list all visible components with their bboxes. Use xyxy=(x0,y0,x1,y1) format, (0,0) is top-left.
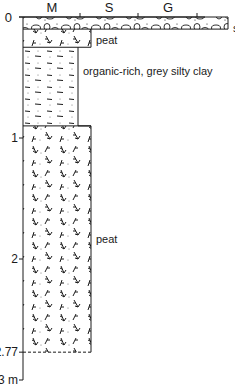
layer-label: peat xyxy=(96,233,117,245)
grain-class-label-g: G xyxy=(163,0,173,15)
stratigraphic-log: silty sandygravelpeatorganic-rich, grey … xyxy=(0,0,235,388)
layer-peat-fill xyxy=(23,29,91,47)
layer-label: peat xyxy=(96,34,117,46)
layer-label: silty sandy xyxy=(233,22,235,34)
layer-peat-fill xyxy=(23,126,91,352)
layer-clay-fill xyxy=(23,47,78,126)
layer-label: organic-rich, grey silty clay xyxy=(83,65,213,77)
grain-axis-zero-label: 0 xyxy=(5,10,12,25)
depth-tick-label: 2.77 xyxy=(0,345,18,359)
depth-tick-label: 1 xyxy=(11,131,18,145)
depth-tick-label: 3 m xyxy=(0,373,18,387)
grain-class-label-m: M xyxy=(47,0,58,15)
layer-gravel-fill xyxy=(23,17,228,29)
depth-tick-label: 2 xyxy=(11,252,18,266)
grain-class-label-s: S xyxy=(105,0,114,15)
